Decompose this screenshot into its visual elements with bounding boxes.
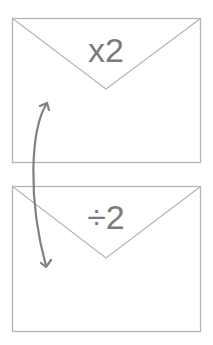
arrow-curve	[33, 103, 47, 266]
envelope-top-label: x2	[66, 33, 146, 67]
double-arrow-icon	[33, 103, 51, 267]
envelope-bottom-label: ÷2	[66, 200, 146, 234]
